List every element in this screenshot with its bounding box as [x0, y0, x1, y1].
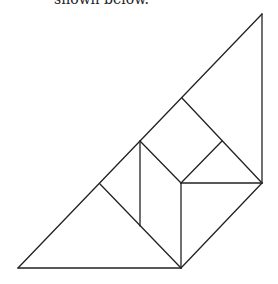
square-right-edge	[181, 141, 222, 183]
lower-right-edge	[181, 183, 262, 268]
tangram-figure	[0, 0, 278, 284]
square-left-edge	[140, 141, 181, 183]
internal-lines	[100, 98, 262, 268]
